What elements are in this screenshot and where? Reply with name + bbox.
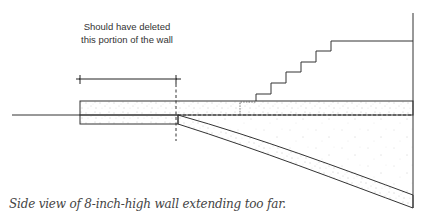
annotation-label: Should have deleted this portion of the … [72,20,182,46]
annotation-line-1: Should have deleted [72,20,182,33]
figure-caption: Side view of 8-inch-high wall extending … [9,197,286,211]
wall-deleted-portion [80,115,178,124]
wall-side-view-diagram [0,0,424,222]
slab-upper-band [80,101,413,115]
annotation-line-2: this portion of the wall [72,33,182,46]
stair-steps [256,41,413,101]
